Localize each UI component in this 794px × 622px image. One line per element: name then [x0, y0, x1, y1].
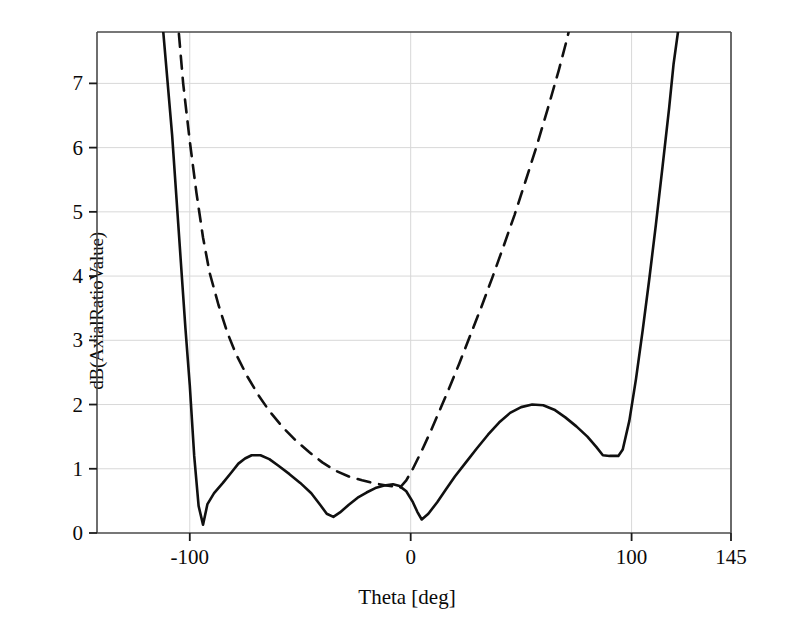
gridlines [97, 32, 731, 533]
axis-frame [97, 32, 731, 533]
plot-area [0, 0, 794, 622]
solid-curve [97, 0, 685, 525]
series-paths [97, 0, 685, 525]
axial-ratio-chart: dB(AxialRatioValue) Theta [deg] 01234567… [0, 0, 794, 622]
dashed-curve [163, 0, 574, 488]
chart-screenshot: dB(AxialRatioValue) Theta [deg] 01234567… [0, 0, 794, 622]
